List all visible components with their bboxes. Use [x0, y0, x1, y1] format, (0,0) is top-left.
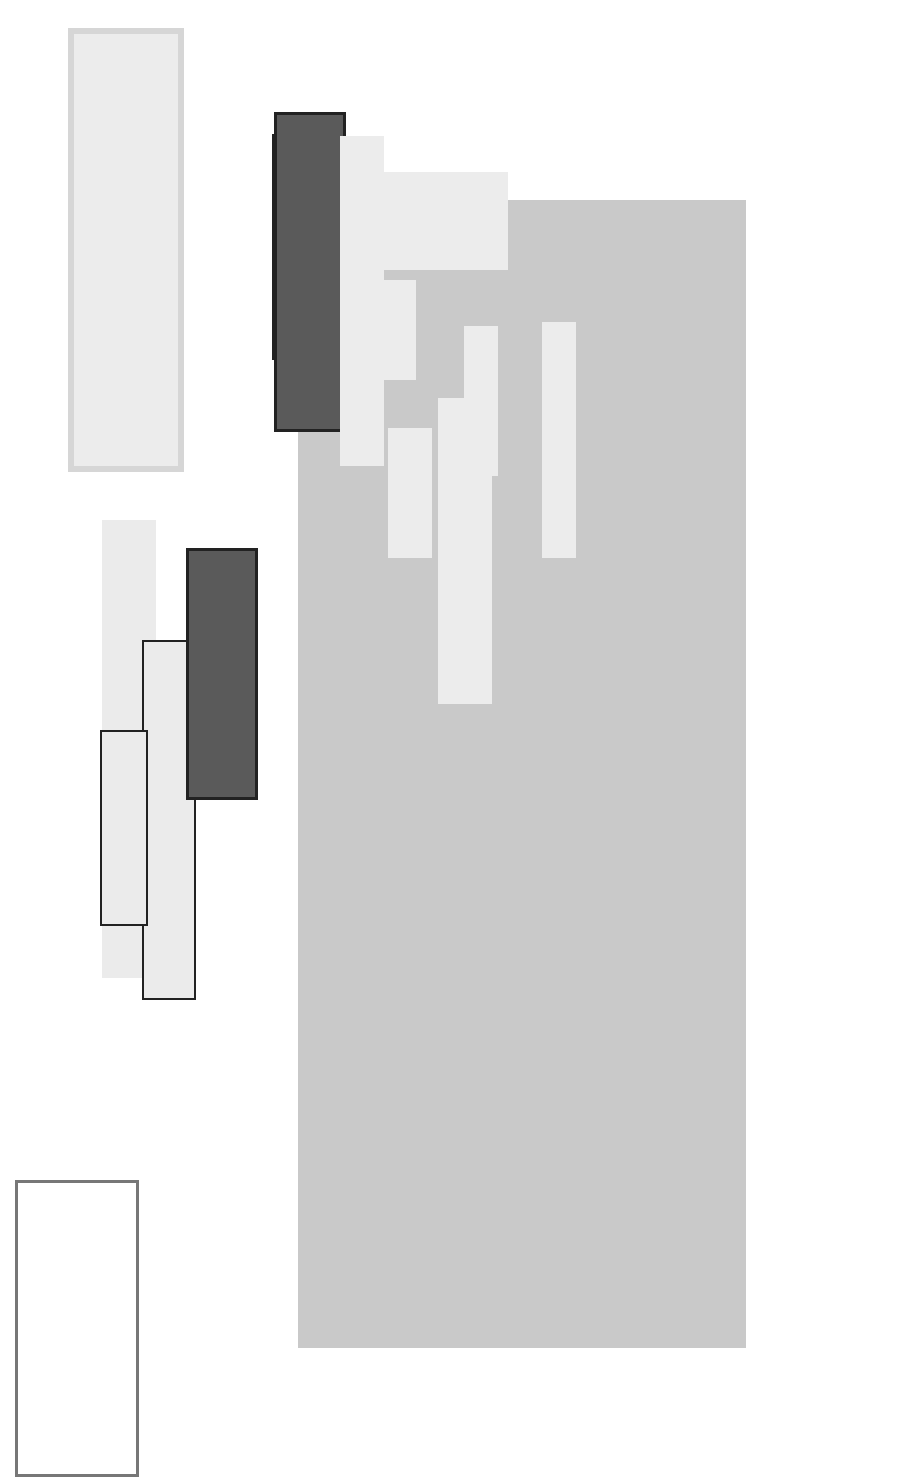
hpa-dysfunction-block	[343, 342, 347, 356]
psycho-social-stress-box	[15, 1180, 139, 1477]
tgf-box	[388, 428, 432, 558]
ifn-box	[382, 280, 416, 380]
glutamine-box	[438, 398, 492, 704]
cns-box	[186, 548, 258, 800]
rnase-l-box	[542, 322, 576, 558]
tnf-list-box	[384, 172, 508, 270]
cfs-diagram	[0, 0, 914, 1478]
immune-system-box	[274, 112, 346, 432]
cytokines-box	[340, 136, 384, 466]
life-history-box	[100, 730, 148, 926]
infections-box	[68, 28, 184, 472]
